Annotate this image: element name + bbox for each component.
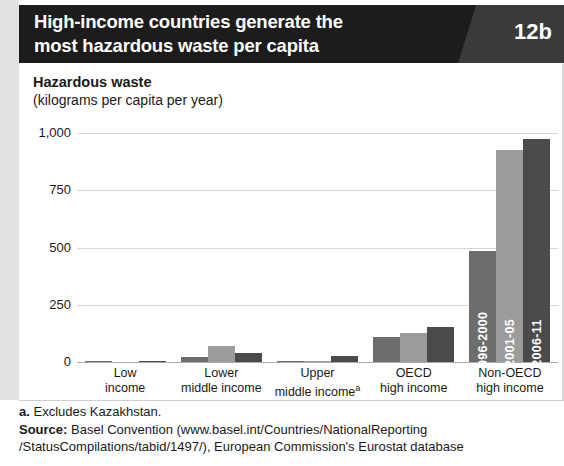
y-tick-label-1000: 1,000 <box>19 125 71 140</box>
x-label-2: Uppermiddle incomea <box>269 366 365 400</box>
bar: 1996-2000 <box>469 251 496 362</box>
source-label: Source: <box>19 422 67 437</box>
x-label-line: middle income <box>173 381 269 396</box>
source-line-1: Source: Basel Convention (www.basel.int/… <box>19 421 564 439</box>
x-label-line: Low <box>77 366 173 381</box>
bar <box>373 337 400 362</box>
footnote-divider <box>19 400 564 401</box>
source-line-2: /StatusCompilations/tabid/1497/), Europe… <box>19 438 564 456</box>
y-tick-label-750: 750 <box>19 182 71 197</box>
bar-groups: 1996-20002001-052006-11 <box>77 133 558 362</box>
figure-badge: 12b <box>454 5 564 63</box>
page-title: High-income countries generate the most … <box>34 10 454 58</box>
y-tick-label-500: 500 <box>19 240 71 255</box>
bar <box>181 357 208 362</box>
x-label-line: middle incomea <box>269 381 365 400</box>
y-tick-label-250: 250 <box>19 297 71 312</box>
bar-group <box>366 133 462 362</box>
series-label-2: 2006-11 <box>530 319 544 366</box>
figure-header: High-income countries generate the most … <box>19 5 564 63</box>
bar <box>208 346 235 362</box>
source-text-1: Basel Convention (www.basel.int/Countrie… <box>67 422 427 437</box>
x-label-0: Lowincome <box>77 366 173 400</box>
bar <box>304 361 331 363</box>
x-label-line: Non-OECD <box>462 366 558 381</box>
y-tick-label-0: 0 <box>19 354 71 369</box>
footnote-marker: a. <box>19 404 30 419</box>
footnote-ref-a: a <box>355 383 360 393</box>
footnote-a: a. Excludes Kazakhstan. <box>19 403 564 421</box>
bar-group <box>77 133 173 362</box>
x-label-1: Lowermiddle income <box>173 366 269 400</box>
bar-group <box>173 133 269 362</box>
bar: 2001-05 <box>496 150 523 362</box>
series-label-0: 1996-2000 <box>476 312 490 374</box>
badge-number: 12b <box>514 19 552 45</box>
bar <box>139 361 166 363</box>
chart-area: Hazardous waste (kilograms per capita pe… <box>19 63 562 400</box>
bar-group: 1996-20002001-052006-11 <box>462 133 558 362</box>
left-margin-strip <box>0 0 19 400</box>
x-label-line: high income <box>366 381 462 396</box>
x-label-4: Non-OECDhigh income <box>462 366 558 400</box>
bar <box>235 353 262 362</box>
x-label-line: income <box>77 381 173 396</box>
bar-group <box>269 133 365 362</box>
bar <box>277 361 304 363</box>
x-axis-labels: LowincomeLowermiddle incomeUppermiddle i… <box>77 366 558 400</box>
x-label-line: Upper <box>269 366 365 381</box>
title-line-1: High-income countries generate the <box>34 11 343 32</box>
x-label-3: OECDhigh income <box>366 366 462 400</box>
bar <box>85 361 112 363</box>
footnote-text: Excludes Kazakhstan. <box>30 404 162 419</box>
bar <box>427 327 454 362</box>
title-line-2: most hazardous waste per capita <box>34 34 454 58</box>
bar: 2006-11 <box>523 139 550 362</box>
series-label-1: 2001-05 <box>503 319 517 367</box>
bar <box>400 333 427 362</box>
x-label-line: Lower <box>173 366 269 381</box>
bar <box>331 356 358 362</box>
x-label-line: OECD <box>366 366 462 381</box>
footnotes: a. Excludes Kazakhstan. Source: Basel Co… <box>19 403 564 456</box>
x-label-line: high income <box>462 381 558 396</box>
figure-root: High-income countries generate the most … <box>0 0 564 466</box>
